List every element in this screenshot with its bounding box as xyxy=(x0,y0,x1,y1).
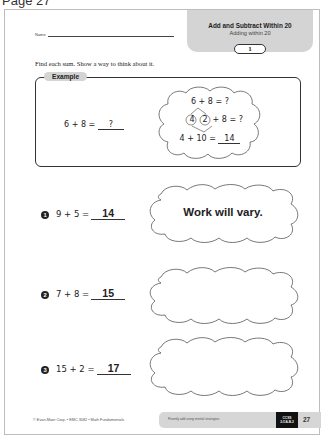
page-number: 27 xyxy=(303,416,310,423)
problem-2: 2 7 + 8 = 15 xyxy=(41,287,125,300)
lesson-subtitle: Adding within 20 xyxy=(187,30,313,36)
problem-2-answer[interactable]: 15 xyxy=(91,287,125,300)
problem-number-2: 2 xyxy=(41,291,49,299)
unit-number-badge: 1 xyxy=(234,44,266,54)
example-box: Example 6 + 8 = ? 6 + 8 = ? 42 + 8 = ? 4… xyxy=(35,77,301,167)
problem-2-equation: 7 + 8 = xyxy=(56,289,89,299)
example-blank: ? xyxy=(98,120,124,130)
footer-bar: Fluently add using mental strategies. CC… xyxy=(159,412,321,428)
copyright: © Evan-Moor Corp. • EMC 3082 • Math Fund… xyxy=(33,418,124,422)
example-tab: Example xyxy=(44,72,87,81)
split-left: 4 xyxy=(187,115,197,124)
thinking-line-2: 42 + 8 = ? xyxy=(187,115,243,124)
worksheet-page: Name Add and Subtract Within 20 Adding w… xyxy=(4,9,320,435)
lesson-header: Add and Subtract Within 20 Adding within… xyxy=(187,10,313,52)
example-equation-text: 6 + 8 = xyxy=(64,120,95,129)
problem-2-work-cloud[interactable] xyxy=(145,265,301,325)
problem-number-1: 1 xyxy=(41,211,49,219)
problem-1: 1 9 + 5 = 14 xyxy=(41,207,125,220)
name-field: Name xyxy=(35,32,174,37)
work-will-vary-text: Work will vary. xyxy=(145,206,301,218)
problem-1-answer[interactable]: 14 xyxy=(91,207,125,220)
ccss-code: 2.OA.B.2 xyxy=(276,420,298,424)
thinking-line-3-text: 4 + 10 = xyxy=(180,134,216,143)
problem-3: 3 15 + 2 = 17 xyxy=(41,362,131,375)
problem-number-3: 3 xyxy=(41,366,49,374)
thinking-line-2-rest: + 8 = ? xyxy=(213,115,243,124)
problem-3-equation: 15 + 2 = xyxy=(56,364,95,374)
name-line xyxy=(48,33,174,37)
thinking-line-3: 4 + 10 = 14 xyxy=(154,134,266,144)
name-label: Name xyxy=(35,32,46,37)
problem-1-work-cloud[interactable]: Work will vary. xyxy=(145,182,301,244)
problem-3-work-cloud[interactable] xyxy=(145,335,301,397)
cloud-outline-icon xyxy=(145,335,301,397)
problem-1-equation: 9 + 5 = xyxy=(56,209,89,219)
example-thought-cloud: 6 + 8 = ? 42 + 8 = ? 4 + 10 = 14 xyxy=(154,84,266,162)
problem-3-answer[interactable]: 17 xyxy=(97,362,131,375)
thinking-line-1: 6 + 8 = ? xyxy=(154,97,266,106)
page-label: Page 27 xyxy=(2,0,50,8)
learning-objective: Fluently add using mental strategies. xyxy=(168,417,220,421)
example-equation: 6 + 8 = ? xyxy=(64,120,124,130)
split-right: 2 xyxy=(200,115,210,124)
lesson-title: Add and Subtract Within 20 xyxy=(187,22,313,29)
thinking-answer: 14 xyxy=(218,134,240,144)
instructions: Find each sum. Show a way to think about… xyxy=(35,60,154,67)
ccss-badge: CCSS 2.OA.B.2 xyxy=(276,412,298,428)
cloud-outline-icon xyxy=(145,265,301,325)
